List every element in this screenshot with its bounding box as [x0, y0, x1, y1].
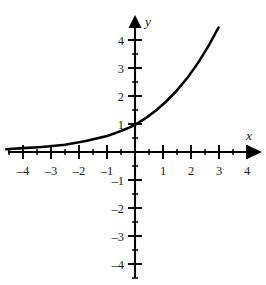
y-axis-label: y	[143, 14, 151, 29]
exponential-curve	[6, 28, 218, 150]
y-tick-label: 3	[118, 62, 124, 76]
y-tick-label: –3	[111, 230, 125, 244]
x-tick-label: 1	[160, 164, 166, 178]
y-tick-label: –1	[111, 174, 125, 188]
y-tick-label: 1	[118, 118, 124, 132]
x-tick-label: 4	[244, 164, 251, 178]
x-tick-label: –4	[16, 164, 30, 178]
y-tick-label: 4	[118, 34, 125, 48]
x-axis-label: x	[245, 128, 252, 143]
y-tick-label: 2	[118, 90, 124, 104]
y-tick-label: –2	[111, 202, 125, 216]
x-tick-label: 3	[216, 164, 222, 178]
y-tick-label: –4	[111, 258, 125, 272]
x-tick-label: 2	[188, 164, 194, 178]
coordinate-plane: –4 –3 –2 –1 1 2 3 4 4 3 2 1 –1 –2 –3 –4 …	[0, 0, 266, 285]
x-tick-label: –3	[44, 164, 58, 178]
exponential-graph-figure: –4 –3 –2 –1 1 2 3 4 4 3 2 1 –1 –2 –3 –4 …	[0, 0, 266, 285]
x-axis-arrow-icon	[248, 146, 262, 159]
x-tick-label: –2	[72, 164, 86, 178]
